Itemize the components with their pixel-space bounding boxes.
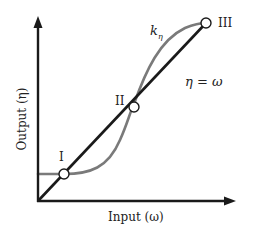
diagram-canvas <box>0 0 273 235</box>
k-eta-label-main: k <box>150 23 158 38</box>
x-axis-label: Input (ω) <box>108 211 164 223</box>
y-axis-arrow-icon <box>34 16 43 28</box>
k-eta-label: kη <box>150 24 163 41</box>
k-eta-label-sub: η <box>158 32 163 41</box>
point-II-label: II <box>115 95 124 107</box>
identity-line-label: η = ω <box>185 75 223 88</box>
point-I-marker <box>59 169 69 179</box>
point-III-marker <box>201 18 211 28</box>
y-axis-label: Output (η) <box>16 87 28 151</box>
fixed-point-diagram: I II III kη η = ω Input (ω) Output (η) <box>0 0 273 235</box>
point-I-label: I <box>59 151 64 163</box>
point-III-label: III <box>218 17 232 29</box>
x-axis-arrow-icon <box>224 197 236 206</box>
point-II-marker <box>129 102 139 112</box>
